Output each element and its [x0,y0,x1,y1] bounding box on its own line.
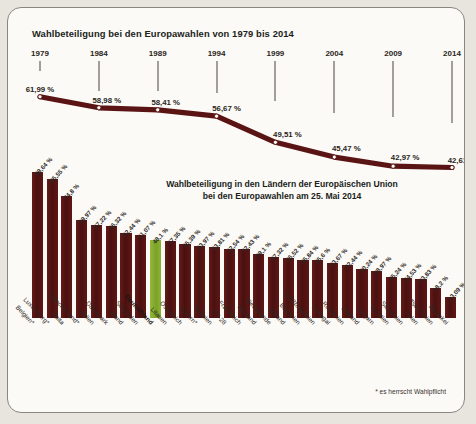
line-value-2014: 42,61 % [448,156,465,165]
line-value-1999: 49,51 % [273,130,302,139]
year-tick-1994 [216,61,217,93]
bar-malta [61,196,72,318]
line-point-1984 [97,106,101,110]
line-value-2009: 42,97 % [391,153,420,162]
year-label-2014: 2014 [443,49,461,58]
year-label-1979: 1979 [31,49,49,58]
year-tick-1979 [40,61,41,71]
year-tick-1984 [98,61,99,91]
infographic-frame: Wahlbeteiligung bei den Europawahlen von… [7,7,465,413]
line-point-1999 [273,140,277,144]
line-chart-svg [8,8,465,193]
line-value-2004: 45,47 % [332,144,361,153]
footnote: * es herrscht Wahlpflicht [375,388,446,395]
line-point-2004 [332,155,336,159]
year-tick-2004 [334,61,335,113]
year-tick-2014 [452,61,453,123]
line-value-1994: 56,67 % [212,104,241,113]
year-label-1984: 1984 [90,49,108,58]
bar-chart: 89,64 %Belgien*85,55 %Luxemburg*74,8 %Ma… [30,168,458,318]
year-label-2009: 2009 [384,49,402,58]
line-point-1979 [38,95,42,99]
line-value-1989: 58,41 % [151,98,180,107]
year-label-1999: 1999 [267,49,285,58]
line-point-1994 [214,114,218,118]
year-label-1994: 1994 [208,49,226,58]
line-point-1989 [156,108,160,112]
line-chart: 197961,99 %198458,98 %198958,41 %199456,… [8,8,465,193]
year-label-1989: 1989 [149,49,167,58]
year-label-2004: 2004 [325,49,343,58]
year-tick-2009 [393,61,394,117]
line-value-1984: 58,98 % [93,96,122,105]
year-tick-1989 [157,61,158,91]
year-tick-1999 [275,61,276,101]
line-value-1979: 61,99 % [26,85,55,94]
bar-belgien [32,172,43,318]
